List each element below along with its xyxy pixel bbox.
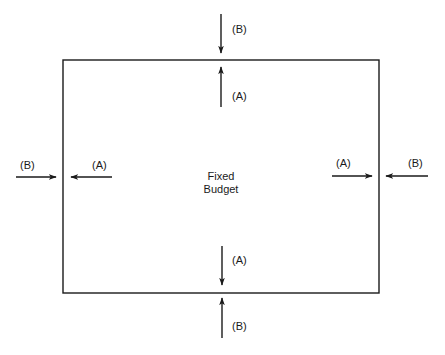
- arrow-label: (A): [232, 254, 247, 266]
- arrow-label: (B): [408, 157, 423, 169]
- arrow-label: (B): [232, 23, 247, 35]
- fixed-budget-diagram: Fixed Budget (B)(A)(B)(A)(A)(B)(A)(B): [0, 0, 445, 355]
- arrow-label: (B): [20, 159, 35, 171]
- center-label-line1: Fixed: [208, 170, 235, 182]
- arrow-right-inner: (A): [332, 157, 372, 176]
- arrow-label: (A): [92, 159, 107, 171]
- arrow-left-inner: (A): [71, 159, 112, 177]
- arrow-left-outer: (B): [16, 159, 56, 177]
- arrow-label: (A): [336, 157, 351, 169]
- arrow-top-outer: (B): [221, 14, 247, 53]
- arrow-top-inner: (A): [221, 67, 247, 107]
- arrow-label: (B): [232, 320, 247, 332]
- center-label-line2: Budget: [204, 183, 239, 195]
- arrow-bottom-outer: (B): [222, 298, 247, 338]
- arrow-label: (A): [232, 90, 247, 102]
- arrow-right-outer: (B): [386, 157, 428, 176]
- arrow-bottom-inner: (A): [222, 246, 247, 285]
